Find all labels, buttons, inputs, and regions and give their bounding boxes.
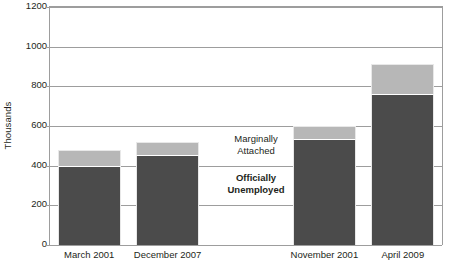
y-axis-tickmark — [46, 245, 50, 246]
annotation-marginally-attached-line2: Attached — [208, 145, 304, 157]
x-axis-tick-label: March 2001 — [50, 249, 128, 261]
y-axis-tick-label: 1200 — [14, 1, 47, 11]
annotation-marginally-attached: Marginally Attached — [208, 133, 304, 157]
annotation-officially-unemployed-line1: Officially — [208, 172, 304, 184]
annotation-officially-unemployed-line2: Unemployed — [208, 184, 304, 196]
bar-segment-marginally-attached[interactable] — [136, 142, 199, 155]
x-axis-tick-label: April 2009 — [364, 249, 442, 261]
x-axis-tick-label: December 2007 — [128, 249, 206, 261]
bar-segment-marginally-attached[interactable] — [371, 64, 434, 95]
annotation-officially-unemployed: Officially Unemployed — [208, 172, 304, 196]
bar-group[interactable] — [371, 64, 434, 245]
y-axis-tick-label: 1000 — [14, 41, 47, 51]
plot-area — [49, 6, 443, 245]
annotation-marginally-attached-line1: Marginally — [208, 133, 304, 145]
bar-segment-officially-unemployed[interactable] — [371, 94, 434, 245]
gridline — [50, 245, 442, 246]
y-axis-tick-label: 0 — [14, 239, 47, 249]
x-axis-tick-labels: March 2001December 2007November 2001Apri… — [49, 249, 443, 269]
y-axis-tick-label: 600 — [14, 120, 47, 130]
bar-segment-officially-unemployed[interactable] — [136, 155, 199, 245]
bar-segment-marginally-attached[interactable] — [58, 150, 121, 166]
y-axis-tick-label: 200 — [14, 199, 47, 209]
bar-group[interactable] — [58, 150, 121, 245]
bar-series-container — [50, 7, 442, 245]
y-axis-tick-labels: 120010008006004002000 — [14, 0, 47, 250]
y-axis-title-label: Thousands — [3, 101, 14, 149]
stacked-bar-chart: Thousands 120010008006004002000 Marginal… — [0, 0, 449, 272]
bar-group[interactable] — [136, 142, 199, 245]
x-axis-tick-label: November 2001 — [285, 249, 363, 261]
y-axis-tick-label: 400 — [14, 160, 47, 170]
bar-segment-officially-unemployed[interactable] — [58, 166, 121, 245]
y-axis-tick-label: 800 — [14, 80, 47, 90]
